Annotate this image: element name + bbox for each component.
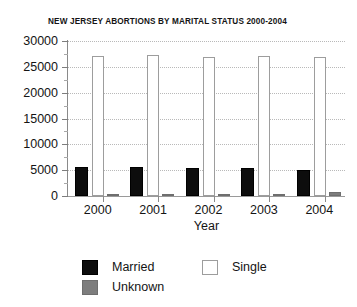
chart-title: NEW JERSEY ABORTIONS BY MARITAL STATUS 2…	[48, 17, 338, 26]
bar-single-2002	[203, 57, 215, 197]
y-axis-tick-label: 10000	[2, 137, 58, 151]
bar-unknown-2002	[218, 194, 230, 196]
bar-group	[179, 41, 234, 196]
legend-swatch-single	[202, 260, 218, 275]
bar-group	[290, 41, 345, 196]
bar-single-2004	[314, 57, 326, 197]
legend-swatch-married	[82, 260, 98, 275]
bar-single-2003	[258, 56, 270, 196]
x-axis-tick	[214, 196, 215, 202]
bar-married-2004	[297, 170, 310, 196]
y-axis-tick-label: 5000	[2, 163, 58, 177]
x-axis-tick	[325, 196, 326, 202]
x-axis-tick-label: 2002	[179, 203, 239, 217]
y-axis-tick-label: 20000	[2, 86, 58, 100]
bar-unknown-2003	[273, 194, 285, 196]
bar-group	[123, 41, 178, 196]
bar-single-2000	[92, 56, 104, 196]
legend-label-married: Married	[112, 258, 154, 277]
bar-married-2003	[241, 168, 254, 196]
legend-label-unknown: Unknown	[112, 278, 164, 297]
bar-unknown-2001	[162, 194, 174, 196]
y-axis-tick-label: 25000	[2, 60, 58, 74]
bar-group	[234, 41, 289, 196]
gridline	[68, 196, 345, 197]
plot-area	[68, 41, 345, 196]
x-axis-tick-label: 2003	[234, 203, 294, 217]
x-axis-tick	[103, 196, 104, 202]
legend-label-single: Single	[232, 258, 267, 277]
x-axis-tick	[269, 196, 270, 202]
y-axis-tick-label: 0	[2, 189, 58, 203]
legend-swatch-unknown	[82, 280, 98, 295]
x-axis-tick	[158, 196, 159, 202]
bar-chart: NEW JERSEY ABORTIONS BY MARITAL STATUS 2…	[0, 0, 357, 307]
x-axis-title: Year	[68, 219, 345, 233]
bar-single-2001	[147, 55, 159, 196]
y-axis-tick-label: 15000	[2, 112, 58, 126]
y-axis-tick-label: 30000	[2, 34, 58, 48]
x-axis-tick-label: 2000	[68, 203, 128, 217]
bar-married-2002	[186, 168, 199, 196]
bar-unknown-2000	[107, 194, 119, 196]
bar-unknown-2004	[329, 192, 341, 196]
bar-group	[68, 41, 123, 196]
x-axis-tick-label: 2004	[289, 203, 349, 217]
bar-married-2000	[75, 167, 88, 196]
bar-married-2001	[130, 167, 143, 196]
x-axis-tick-label: 2001	[123, 203, 183, 217]
